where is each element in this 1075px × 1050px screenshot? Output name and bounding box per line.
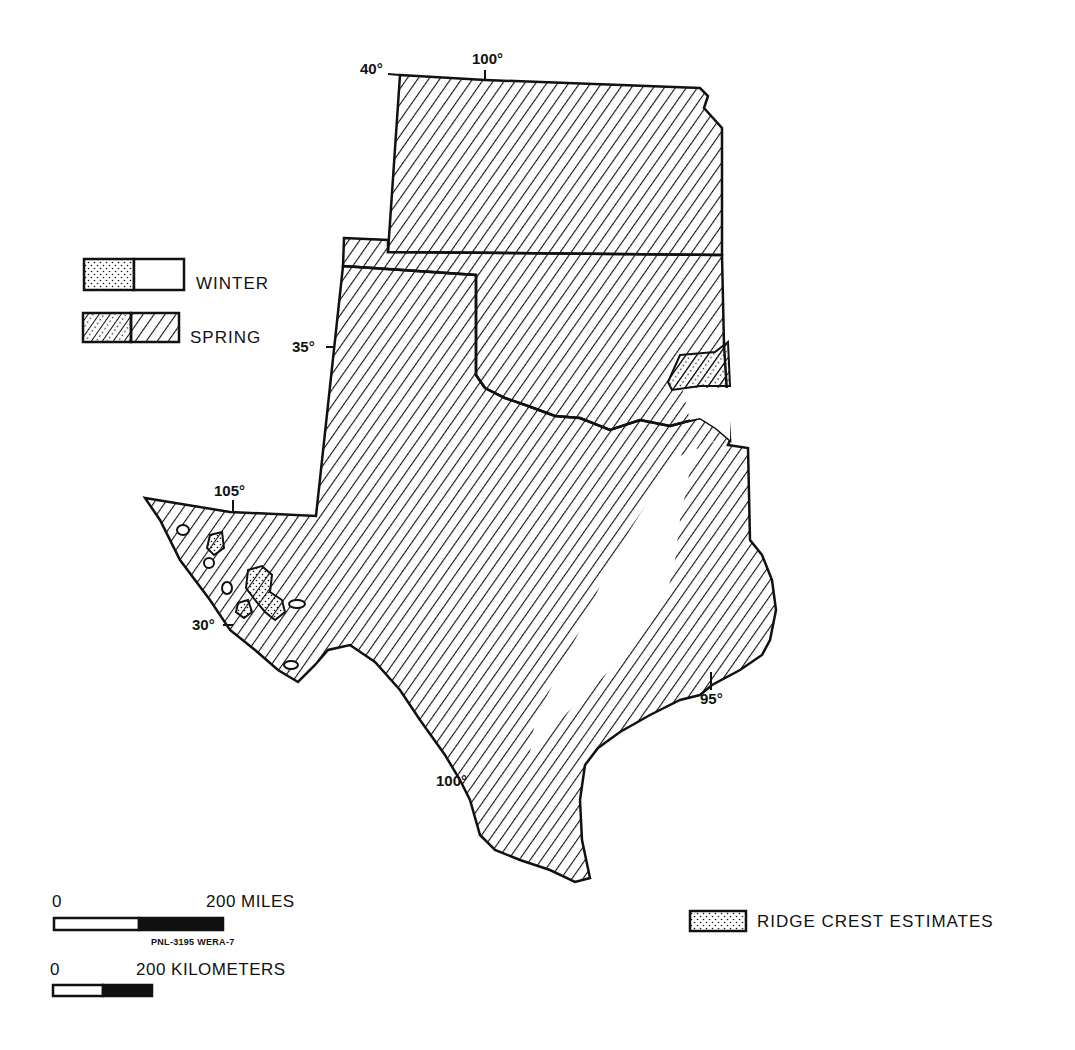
label-lat-35: 35° [292,338,315,355]
legend-winter-swatch [84,259,184,290]
tick-40 [388,74,400,75]
label-lon-95: 95° [700,690,723,707]
legend-ridge-label: RIDGE CREST ESTIMATES [757,912,994,932]
label-lat-40: 40° [360,60,383,77]
scale-km-start: 0 [50,960,60,980]
ridge-patch-7 [284,661,298,669]
ridge-patch-6 [289,600,305,608]
label-lon-100-bottom: 100° [436,772,467,789]
legend-spring-swatch [83,313,179,342]
ridge-patch-8 [204,558,214,568]
kansas-region [388,75,722,255]
ridge-patch-4 [177,525,189,535]
scale-km-end: 200 KILOMETERS [136,960,286,980]
legend-spring-label: SPRING [190,328,261,348]
label-lon-105: 105° [214,482,245,499]
ridge-patch-5 [222,582,232,594]
wind-resource-map [0,0,1075,1050]
figure-id: PNL-3195 WERA-7 [151,937,235,947]
label-lat-30: 30° [192,616,215,633]
scale-miles-start: 0 [52,892,62,912]
scale-bar-kilometers [53,985,152,996]
legend-ridge-swatch [690,911,746,931]
label-lon-100-top: 100° [472,50,503,67]
scale-miles-end: 200 MILES [206,892,295,912]
legend-winter-label: WINTER [196,274,269,294]
scale-bar-miles [54,918,223,930]
